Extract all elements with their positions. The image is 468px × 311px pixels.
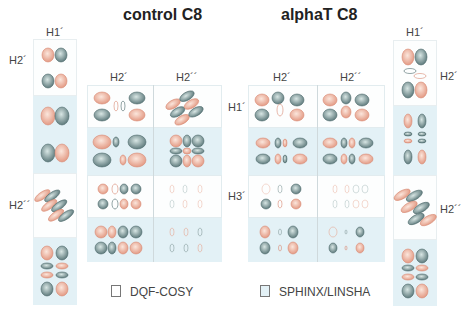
legend-label-sphinx-linsha: SPHINX/LINSHA <box>279 285 370 299</box>
legend-swatch-sphinx-linsha <box>260 285 270 297</box>
legend-swatch-dqf-cosy <box>111 285 121 297</box>
cross-peak-contours <box>0 0 468 311</box>
legend-label-dqf-cosy: DQF-COSY <box>130 285 193 299</box>
